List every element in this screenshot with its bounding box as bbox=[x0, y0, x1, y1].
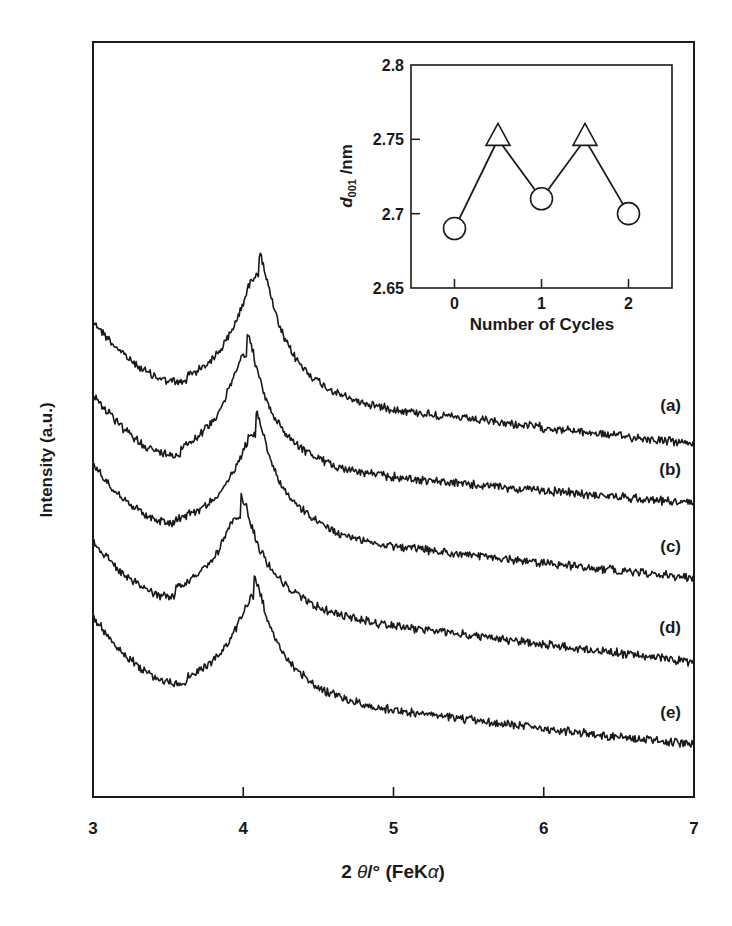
main-x-axis-label: 2 θ/° (FeKα) bbox=[341, 861, 445, 882]
inset-y-label-unit: /nm bbox=[337, 144, 356, 179]
inset-marker-triangle bbox=[486, 123, 510, 145]
curve-label-a: (a) bbox=[660, 396, 681, 415]
curve-label-d: (d) bbox=[659, 618, 681, 637]
x-label-source: (FeK bbox=[385, 861, 428, 882]
xrd-curve-e bbox=[93, 576, 694, 747]
inset-x-tick-label: 0 bbox=[450, 295, 459, 312]
main-y-axis-label: Intensity (a.u.) bbox=[37, 402, 56, 517]
inset-y-label-sub: 001 bbox=[346, 179, 358, 197]
main-x-tick-label: 5 bbox=[389, 819, 398, 838]
inset-y-axis-label: d001 /nm bbox=[337, 144, 358, 208]
inset-x-tick-label: 1 bbox=[537, 295, 546, 312]
curve-label-c: (c) bbox=[660, 537, 681, 556]
main-x-tick-label: 4 bbox=[239, 819, 249, 838]
inset-y-tick-label: 2.7 bbox=[382, 206, 404, 223]
curve-label-e: (e) bbox=[660, 703, 681, 722]
inset-y-tick-label: 2.65 bbox=[373, 280, 404, 297]
xrd-figure: 34567 Intensity (a.u.) 2 θ/° (FeKα) (a)(… bbox=[0, 0, 732, 926]
inset-axis-ticks: 0122.652.72.752.8 bbox=[373, 57, 633, 312]
inset-y-tick-label: 2.75 bbox=[373, 131, 404, 148]
inset-marker-circle bbox=[618, 203, 640, 225]
curve-label-b: (b) bbox=[659, 460, 681, 479]
inset-y-label-d: d bbox=[337, 197, 356, 208]
main-x-axis-ticks: 34567 bbox=[88, 787, 698, 838]
inset-marker-triangle bbox=[573, 123, 597, 145]
inset-x-axis-label: Number of Cycles bbox=[470, 315, 615, 334]
inset-plot-frame bbox=[411, 65, 672, 288]
inset-plot: 0122.652.72.752.8 Number of Cycles d001 … bbox=[337, 57, 672, 334]
inset-series-line bbox=[455, 139, 629, 228]
main-x-tick-label: 7 bbox=[689, 819, 698, 838]
x-label-degree: /° bbox=[367, 861, 385, 882]
x-label-close: ) bbox=[439, 861, 445, 882]
inset-x-tick-label: 2 bbox=[624, 295, 633, 312]
inset-marker-circle bbox=[444, 218, 466, 240]
main-x-tick-label: 3 bbox=[88, 819, 97, 838]
x-label-prefix: 2 bbox=[341, 861, 357, 882]
main-x-tick-label: 6 bbox=[539, 819, 548, 838]
xrd-curve-b bbox=[93, 335, 694, 505]
xrd-curve-d bbox=[93, 494, 694, 666]
inset-marker-circle bbox=[531, 188, 553, 210]
inset-y-tick-label: 2.8 bbox=[382, 57, 404, 74]
